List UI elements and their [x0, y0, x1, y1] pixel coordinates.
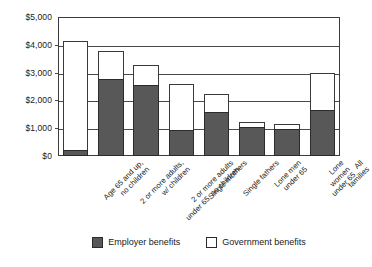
legend-label: Government benefits — [222, 237, 306, 247]
bar-segment-employer — [310, 110, 335, 156]
bar-2[interactable] — [133, 65, 158, 156]
bar-6[interactable] — [274, 124, 299, 156]
chart-legend: Employer benefits Government benefits — [58, 234, 340, 250]
y-tick-label: $1,000 — [25, 124, 52, 133]
employer-swatch-icon — [92, 237, 103, 248]
y-tick-label: $4,000 — [25, 40, 52, 49]
bar-segment-government — [204, 94, 229, 112]
bar-segment-employer — [274, 129, 299, 156]
bar-segment-employer — [98, 79, 123, 156]
y-tick-label: $5,000 — [25, 13, 52, 22]
bar-0[interactable] — [63, 41, 88, 156]
bar-segment-employer — [133, 85, 158, 156]
government-swatch-icon — [206, 237, 217, 248]
y-tick-label: $3,000 — [25, 68, 52, 77]
bar-segment-employer — [204, 112, 229, 156]
bar-segment-government — [63, 41, 88, 150]
y-tick-label: $0 — [42, 152, 52, 161]
bar-1[interactable] — [98, 51, 123, 156]
bar-segment-employer — [239, 127, 264, 156]
bar-7[interactable] — [310, 73, 335, 156]
bar-segment-employer — [169, 130, 194, 156]
bar-segment-government — [169, 84, 194, 130]
legend-item-government: Government benefits — [206, 237, 306, 248]
bar-segment-government — [310, 73, 335, 110]
bars-layer — [58, 17, 340, 156]
legend-item-employer: Employer benefits — [92, 237, 180, 248]
bar-segment-employer — [63, 150, 88, 156]
y-tick-label: $2,000 — [25, 96, 52, 105]
y-axis: $5,000 $4,000 $3,000 $2,000 $1,000 $0 — [0, 0, 58, 160]
legend-label: Employer benefits — [108, 237, 180, 247]
bar-segment-government — [98, 51, 123, 79]
bar-3[interactable] — [169, 84, 194, 156]
bar-segment-government — [133, 65, 158, 85]
bar-4[interactable] — [204, 94, 229, 156]
bar-5[interactable] — [239, 122, 264, 156]
x-axis-labels: Age 65 and up, no children2 or more adul… — [58, 157, 340, 227]
